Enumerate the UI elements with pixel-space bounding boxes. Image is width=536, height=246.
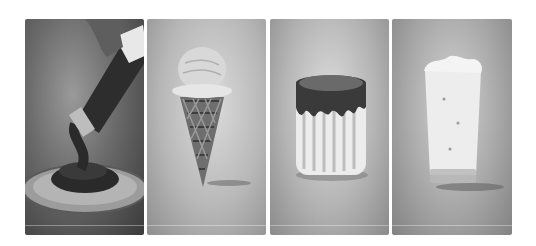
sauce-bottle-illustration xyxy=(25,19,144,235)
floor-line xyxy=(147,225,266,226)
image-panel-milkshake xyxy=(392,19,512,235)
image-panel-caramel-pudding xyxy=(270,19,389,235)
ice-cream-cone-illustration xyxy=(147,19,266,235)
caramel-pudding-illustration xyxy=(270,19,389,235)
floor-line xyxy=(392,225,512,226)
image-panel-ice-cream-cone xyxy=(147,19,266,235)
floor-line xyxy=(270,225,389,226)
image-panel-sauce-bottle xyxy=(25,19,144,235)
milkshake-illustration xyxy=(392,19,512,235)
floor-line xyxy=(25,225,144,226)
